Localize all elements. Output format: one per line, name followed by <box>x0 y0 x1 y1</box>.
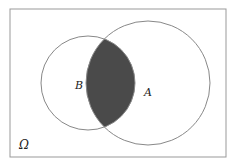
set-a-label: A <box>143 86 152 99</box>
venn-diagram: B A Ω <box>0 0 234 165</box>
universe-label: Ω <box>18 138 29 152</box>
set-b-label: B <box>74 79 83 92</box>
